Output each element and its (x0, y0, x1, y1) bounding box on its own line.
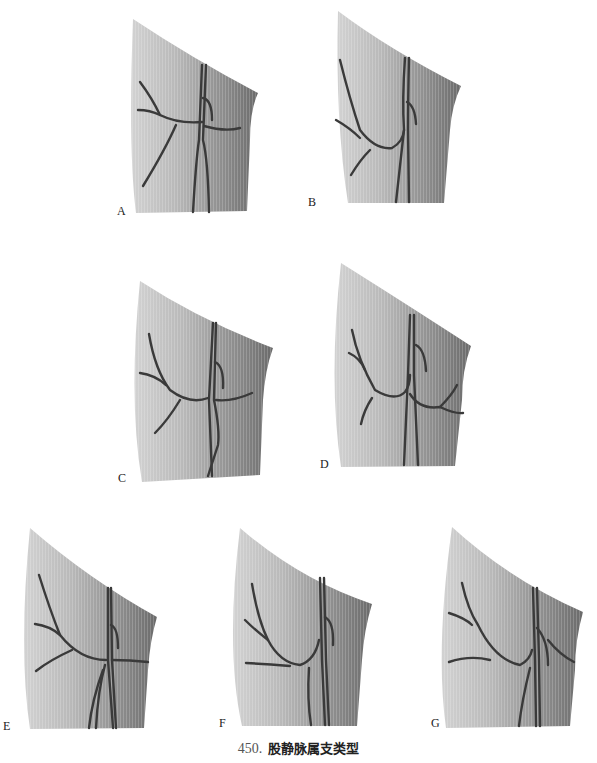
panel-d (335, 263, 472, 467)
panel-e (24, 528, 157, 729)
caption-number: 450. (238, 741, 263, 756)
panel-a (131, 19, 258, 213)
panel-label-e: E (3, 719, 10, 734)
panel-b (336, 11, 461, 203)
panel-f (233, 528, 372, 726)
figure-svg (0, 0, 597, 763)
figure-plate (0, 0, 597, 763)
figure-caption: 450.股静脉属支类型 (0, 738, 597, 757)
panel-label-d: D (320, 457, 329, 472)
panel-g (442, 527, 583, 728)
panel-c (134, 281, 273, 482)
panel-label-c: C (118, 471, 126, 486)
panel-label-b: B (308, 195, 316, 210)
caption-text: 股静脉属支类型 (268, 741, 359, 756)
panel-label-a: A (117, 204, 126, 219)
panel-label-f: F (219, 716, 226, 731)
panel-label-g: G (431, 716, 440, 731)
